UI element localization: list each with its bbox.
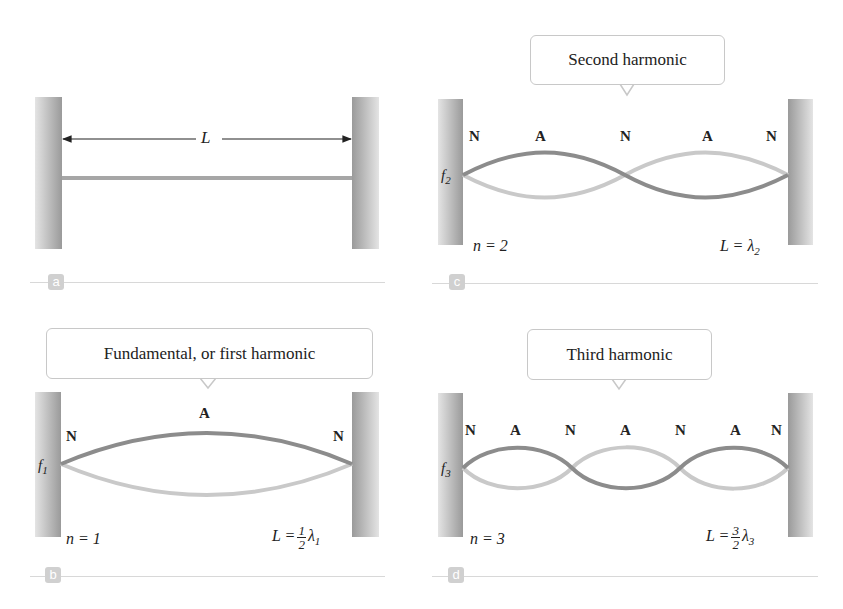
panel-c-divider xyxy=(432,283,818,284)
frequency-label: f2 xyxy=(441,167,451,186)
length-relation: L = λ2 xyxy=(720,237,760,257)
node-label: N xyxy=(66,428,77,445)
node-label: N xyxy=(771,422,782,439)
mode-number-label: n = 3 xyxy=(470,530,505,548)
frequency-label: f1 xyxy=(38,457,48,476)
left-wall xyxy=(35,97,62,249)
node-label: N xyxy=(766,128,777,145)
mode-number-label: n = 2 xyxy=(473,237,508,255)
callout-third-harmonic: Third harmonic xyxy=(527,329,712,380)
mode-number-label: n = 1 xyxy=(66,530,101,548)
antinode-label: A xyxy=(510,422,521,439)
panel-a-divider xyxy=(30,282,385,283)
string-mode-dark xyxy=(61,433,352,464)
antinode-label: A xyxy=(730,422,741,439)
callout-second-harmonic: Second harmonic xyxy=(530,35,725,85)
callout-text: Fundamental, or first harmonic xyxy=(47,329,372,378)
antinode-label: A xyxy=(199,405,210,422)
antinode-label: A xyxy=(702,128,713,145)
panel-c-tag: c xyxy=(449,274,465,290)
panel-d-diagram xyxy=(438,393,813,537)
panel-d-divider xyxy=(432,576,818,577)
node-label: N xyxy=(469,128,480,145)
string-mode-light xyxy=(463,447,788,488)
panel-d-tag: d xyxy=(448,567,464,583)
standing-waves-diagram xyxy=(0,0,843,609)
callout-text: Second harmonic xyxy=(531,36,724,84)
string-mode-dark xyxy=(463,448,788,489)
antinode-label: A xyxy=(535,128,546,145)
node-label: N xyxy=(465,422,476,439)
string-mode-dark xyxy=(463,153,788,198)
fraction: 32 xyxy=(731,524,740,551)
node-label: N xyxy=(565,422,576,439)
node-label: N xyxy=(675,422,686,439)
node-label: N xyxy=(620,128,631,145)
node-label: N xyxy=(333,428,344,445)
right-wall xyxy=(352,97,379,249)
fraction: 12 xyxy=(297,524,306,551)
length-label: L xyxy=(201,128,210,148)
antinode-label: A xyxy=(620,422,631,439)
callout-text: Third harmonic xyxy=(528,330,711,379)
panel-c-diagram xyxy=(438,99,813,245)
panel-b-tag: b xyxy=(45,567,61,583)
callout-fundamental: Fundamental, or first harmonic xyxy=(46,328,373,379)
panel-a-diagram xyxy=(35,97,379,249)
panel-a-tag: a xyxy=(48,274,64,290)
panel-b-divider xyxy=(30,576,385,577)
length-relation: L =32λ3 xyxy=(706,524,754,551)
string-mode-light xyxy=(61,464,352,495)
length-relation: L =12λ1 xyxy=(272,524,320,551)
frequency-label: f3 xyxy=(441,460,451,479)
